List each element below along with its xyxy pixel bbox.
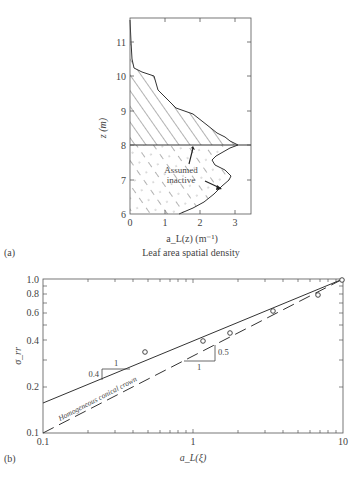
panel-a-ytick-10: 10 <box>116 71 126 82</box>
panel-a-chart: 6 7 8 9 10 11 0 1 2 3 z (m) a_L(z) (m⁻¹)… <box>4 18 251 259</box>
slope-solid-run: 1 <box>114 358 118 368</box>
panel-b-chart: 1 0.4 1 0.5 Homogeneous conical crown 0.… <box>4 274 348 465</box>
panel-b-ytick-0.4: 0.4 <box>27 335 40 346</box>
slope-dashed-rise: 0.5 <box>218 347 229 357</box>
panel-a-ytick-7: 7 <box>121 175 126 186</box>
panel-b-ytick-1.0: 1.0 <box>27 274 40 285</box>
figure-canvas: 6 7 8 9 10 11 0 1 2 3 z (m) a_L(z) (m⁻¹)… <box>0 0 362 479</box>
panel-a-ytick-6: 6 <box>121 209 126 220</box>
annotation-inactive: inactive <box>167 175 196 185</box>
panel-a-caption: Leaf area spatial density <box>142 247 239 258</box>
panel-a-label: (a) <box>4 247 15 259</box>
panel-b-label: (b) <box>4 453 16 465</box>
panel-a-xtick-3: 3 <box>233 217 238 228</box>
panel-a-xtick-2: 2 <box>198 217 203 228</box>
data-point <box>316 293 321 298</box>
panel-a-xlabel: a_L(z) (m⁻¹) <box>166 233 218 245</box>
panel-a-xtick-1: 1 <box>163 217 168 228</box>
panel-a-ylabel: z (m) <box>97 117 109 139</box>
panel-a-ytick-9: 9 <box>121 106 126 117</box>
homogeneous-crown-label: Homogeneous conical crown <box>56 374 139 423</box>
slope-solid-rise: 0.4 <box>88 369 99 379</box>
data-point <box>201 339 206 344</box>
panel-b-ytick-0.6: 0.6 <box>27 307 40 318</box>
data-point <box>271 309 276 314</box>
panel-b-x-ticks <box>88 279 336 433</box>
slope-dashed-run: 1 <box>197 362 201 372</box>
homogeneous-conical-crown-line <box>43 279 343 433</box>
solid-fit-line <box>43 279 343 403</box>
data-point <box>143 350 148 355</box>
panel-b-ytick-0.8: 0.8 <box>27 288 40 299</box>
panel-a-xtick-0: 0 <box>128 217 133 228</box>
active-canopy-area <box>130 20 238 145</box>
panel-b-xtick-0.1: 0.1 <box>37 436 50 447</box>
panel-b-ytick-0.2: 0.2 <box>27 381 40 392</box>
panel-b-xtick-10: 10 <box>338 436 348 447</box>
panel-b-ylabel: σ_rr <box>12 347 23 365</box>
data-point <box>228 331 233 336</box>
panel-b-xtick-1: 1 <box>191 436 196 447</box>
panel-a-ytick-8: 8 <box>121 140 126 151</box>
annotation-assumed: Assumed <box>164 165 198 175</box>
panel-a-ytick-11: 11 <box>116 37 126 48</box>
observation-points <box>143 278 345 355</box>
panel-b-xlabel: a_L(ξ) <box>180 452 207 464</box>
data-point <box>340 278 345 283</box>
